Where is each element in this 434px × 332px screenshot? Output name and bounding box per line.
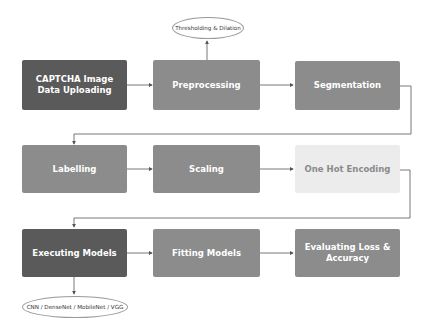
model-list-note: CNN / DenseNet / MobileNet / VGG <box>22 296 128 318</box>
segmentation-node: Segmentation <box>295 61 400 110</box>
scaling-node: Scaling <box>153 145 260 193</box>
captcha-upload-node: CAPTCHA Image Data Uploading <box>22 60 127 110</box>
one-hot-encoding-node: One Hot Encoding <box>295 145 400 193</box>
labelling-node: Labelling <box>22 145 127 193</box>
executing-models-node: Executing Models <box>22 229 127 277</box>
fitting-models-node: Fitting Models <box>153 229 260 277</box>
thresholding-dilation-note: Thresholding & Dilation <box>172 17 244 39</box>
evaluating-node: Evaluating Loss & Accuracy <box>295 229 400 277</box>
preprocessing-node: Preprocessing <box>153 60 260 110</box>
